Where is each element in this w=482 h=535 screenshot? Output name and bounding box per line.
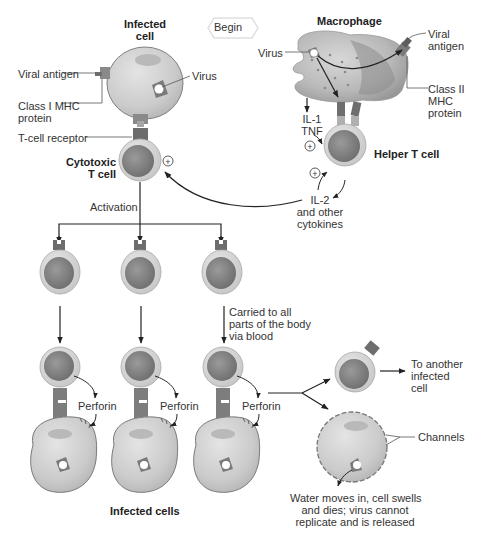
label-line: Viral	[428, 28, 464, 40]
label-line: cell	[118, 30, 172, 42]
diagram-svg: + + +	[0, 0, 482, 535]
macrophage-cell	[293, 31, 412, 126]
svg-text:+: +	[312, 169, 317, 179]
killing-pair-3	[194, 347, 260, 492]
label-line: Carried to all	[229, 306, 311, 318]
cytotoxic-t-cell-clone	[121, 240, 161, 294]
virus-label: Virus	[192, 70, 217, 82]
killing-pair-2	[112, 347, 178, 492]
label-line: TNF	[298, 125, 326, 137]
label-line: To another	[411, 358, 463, 370]
label-line: and dies; virus cannot	[290, 504, 420, 516]
infected-cell-title: Infected cell	[118, 18, 172, 42]
label-line: Infected	[118, 18, 172, 30]
label-line: protein	[18, 112, 80, 124]
class-i-mhc-label: Class I MHC protein	[18, 100, 80, 124]
cytotoxic-t-cell	[119, 139, 161, 181]
t-cell-receptor-label: T-cell receptor	[18, 132, 88, 144]
label-line: infected	[411, 370, 463, 382]
label-line: Class I MHC	[18, 100, 80, 112]
label-line: replicate and is released	[290, 516, 420, 528]
macrophage-label: Macrophage	[317, 15, 382, 27]
perforin-label-3: Perforin	[242, 400, 281, 412]
diagram: + + +	[0, 0, 482, 535]
begin-label: Begin	[203, 17, 253, 37]
label-line: antigen	[428, 40, 464, 52]
label-line: parts of the body	[229, 318, 311, 330]
label-line: Water moves in, cell swells	[290, 492, 420, 504]
carried-by-blood-label: Carried to all parts of the body via blo…	[229, 306, 311, 342]
killing-pair-1	[31, 347, 97, 492]
dying-infected-cell	[317, 412, 387, 486]
label-line: protein	[428, 107, 465, 119]
il1-tnf-label: IL-1 TNF	[298, 113, 326, 137]
infected-cells-label: Infected cells	[110, 505, 180, 517]
label-line: MHC	[428, 95, 465, 107]
label-line: T cell	[64, 168, 116, 180]
viral-antigen-label: Viral antigen	[18, 68, 79, 80]
channels-label: Channels	[418, 431, 464, 443]
label-line: and other	[292, 206, 348, 218]
label-line: IL-1	[298, 113, 326, 125]
il2-cytokines-label: IL-2 and other cytokines	[292, 194, 348, 230]
class-ii-mhc-label: Class II MHC protein	[428, 83, 465, 119]
water-moves-in-label: Water moves in, cell swells and dies; vi…	[290, 492, 420, 528]
label-line: cytokines	[292, 218, 348, 230]
activation-label: Activation	[90, 201, 138, 213]
cytotoxic-t-cell-clone	[40, 240, 80, 294]
label-line: IL-2	[292, 194, 348, 206]
viral-antigen-right-label: Viral antigen	[428, 28, 464, 52]
helper-t-cell	[324, 124, 366, 166]
label-line: Class II	[428, 83, 465, 95]
to-another-cell-label: To another infected cell	[411, 358, 463, 394]
infected-cell-top	[95, 47, 183, 127]
released-t-cell	[335, 340, 380, 392]
cytotoxic-t-cell-clone	[202, 240, 242, 294]
label-line: via blood	[229, 330, 311, 342]
perforin-label-1: Perforin	[78, 400, 117, 412]
svg-text:+: +	[307, 142, 312, 152]
cytotoxic-t-cell-label: Cytotoxic T cell	[64, 156, 116, 180]
virus-macrophage-label: Virus	[258, 47, 283, 59]
begin-badge: Begin	[203, 17, 253, 37]
svg-text:+: +	[165, 157, 170, 167]
label-line: cell	[411, 382, 463, 394]
perforin-label-2: Perforin	[160, 400, 199, 412]
helper-t-cell-label: Helper T cell	[374, 148, 439, 160]
label-line: Cytotoxic	[64, 156, 116, 168]
